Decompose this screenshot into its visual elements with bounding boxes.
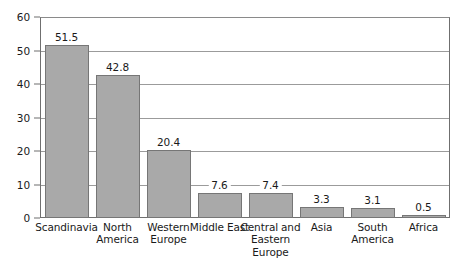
bar-value-label: 0.5 [412, 202, 434, 213]
bars-layer: 51.542.820.47.67.43.33.10.5 [41, 17, 449, 218]
bar-value-label: 7.6 [208, 180, 230, 191]
category-label-line: Eastern [239, 233, 302, 245]
bar-value-label: 42.8 [103, 62, 132, 73]
category-label-line: Europe [239, 246, 302, 258]
y-axis-tick-label: 40 [17, 78, 30, 90]
bar-value-label: 20.4 [154, 137, 183, 148]
category-label-line: Europe [137, 233, 200, 245]
bar-slot: 0.5 [398, 17, 449, 218]
bar[interactable] [402, 215, 446, 218]
y-axis-tick-label: 50 [17, 45, 30, 57]
y-axis-tick-label: 0 [23, 212, 30, 224]
bar[interactable] [300, 207, 344, 218]
category-label-line: Africa [392, 221, 455, 233]
y-axis-tick-label: 60 [17, 11, 30, 23]
bar[interactable] [198, 193, 242, 218]
bar[interactable] [351, 208, 395, 218]
bar[interactable] [45, 45, 89, 218]
category-label-line: America [341, 233, 404, 245]
y-axis-tick-label: 10 [17, 179, 30, 191]
bar-slot: 42.8 [92, 17, 143, 218]
bar-slot: 20.4 [143, 17, 194, 218]
bar-value-label: 3.1 [361, 195, 383, 206]
bar-chart: 0102030405060 51.542.820.47.67.43.33.10.… [0, 0, 471, 278]
bar-value-label: 7.4 [259, 180, 281, 191]
bar-slot: 51.5 [41, 17, 92, 218]
x-axis-labels: ScandinaviaNorthAmericaWesternEuropeMidd… [41, 221, 449, 277]
y-axis-tick-label: 30 [17, 112, 30, 124]
bar-slot: 3.1 [347, 17, 398, 218]
bar-value-label: 3.3 [310, 194, 332, 205]
x-axis-category-label: Africa [392, 221, 455, 233]
bar-value-label: 51.5 [52, 32, 81, 43]
bar[interactable] [96, 75, 140, 218]
y-axis-tick-label: 20 [17, 145, 30, 157]
bar-slot: 7.4 [245, 17, 296, 218]
y-axis: 0102030405060 [0, 0, 40, 278]
bar[interactable] [249, 193, 293, 218]
bar-slot: 7.6 [194, 17, 245, 218]
bar-slot: 3.3 [296, 17, 347, 218]
bar[interactable] [147, 150, 191, 218]
